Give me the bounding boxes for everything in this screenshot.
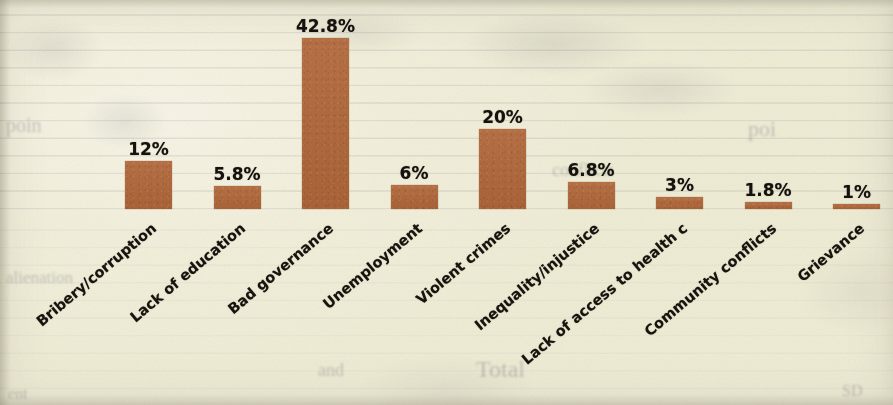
bar <box>479 129 526 209</box>
bar <box>302 38 349 209</box>
bar-value-label: 20% <box>482 107 523 127</box>
bar-value-label: 42.8% <box>296 16 355 36</box>
bar-chart-plot: 12%Bribery/corruption5.8%Lack of educati… <box>0 0 893 405</box>
bar-value-label: 1% <box>842 182 871 202</box>
category-label: Violent crimes <box>414 220 514 308</box>
bar <box>745 202 792 209</box>
bar <box>125 161 172 209</box>
bar <box>833 204 880 209</box>
category-label: Lack of access to health c <box>519 220 691 368</box>
category-label: Unemployment <box>320 220 425 312</box>
bar-value-label: 12% <box>128 139 169 159</box>
bar-value-label: 5.8% <box>213 164 260 184</box>
bar-value-label: 6.8% <box>567 160 614 180</box>
category-label: Grievance <box>795 220 868 285</box>
scanned-chart-page: poinpoiTotalandalienationentconflictsSD … <box>0 0 893 405</box>
bar <box>568 182 615 209</box>
bar <box>656 197 703 209</box>
bar <box>214 186 261 209</box>
bar <box>391 185 438 209</box>
bar-value-label: 3% <box>665 175 694 195</box>
bar-value-label: 6% <box>400 163 429 183</box>
bar-value-label: 1.8% <box>744 180 791 200</box>
